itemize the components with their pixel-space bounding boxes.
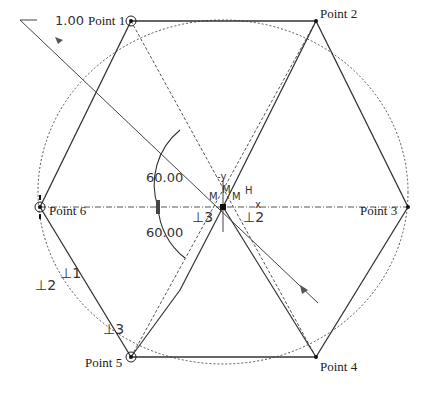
midpoint-constraint-2[interactable]: M [222,184,231,195]
point-3-marker[interactable] [406,205,410,209]
point-3-label: Point 3 [360,203,397,218]
scale-label: 1.00 [55,13,84,28]
perpendicular-3-constraint-left[interactable]: ⊥3 [103,321,124,337]
point-4-label: Point 4 [320,359,358,374]
point-2-label: Point 2 [320,6,357,21]
point-6-label: Point 6 [49,203,87,218]
midpoint-constraint-1[interactable]: M [209,191,218,202]
point-2-marker[interactable] [314,19,318,23]
perpendicular-2-constraint-left[interactable]: ⊥2 [35,277,56,293]
angle-upper-label[interactable]: 60.00 [146,170,183,185]
dimension-leader[interactable] [20,20,318,303]
horizontal-constraint[interactable]: H [245,185,253,196]
angle-lower-label[interactable]: 60.00 [146,225,183,240]
perpendicular-3-constraint-center[interactable]: ⊥3 [192,209,213,225]
edge-2-3 [316,21,408,207]
edge-3-4 [316,207,408,357]
point-1-label: Point 1 [88,13,125,28]
sketch-canvas[interactable]: 1.00 Point 1 Point 2 Point 3 Point 4 Poi… [0,0,426,403]
neg-y-axis-label: -y [217,171,226,182]
x-axis-label: x [255,199,261,210]
point-4-marker[interactable] [314,355,318,359]
midpoint-constraint-3[interactable]: M [232,191,241,202]
edge-6-1 [40,21,131,207]
perpendicular-1-constraint[interactable]: ⊥1 [60,265,81,281]
perpendicular-2-constraint-center[interactable]: ⊥2 [243,209,264,225]
point-5-label: Point 5 [85,355,122,370]
